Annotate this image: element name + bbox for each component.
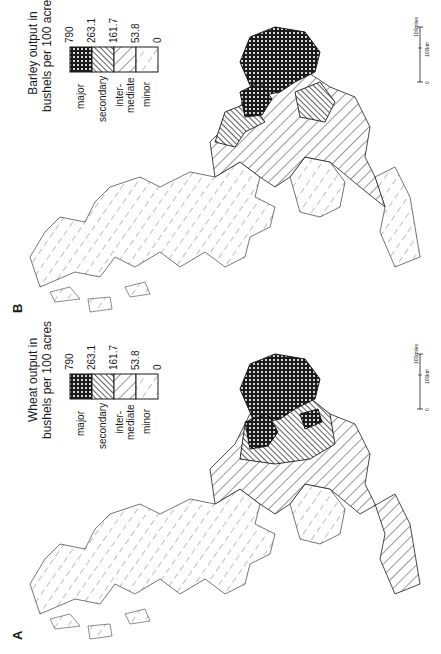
legend-label-intermediate-1: inter- (114, 77, 125, 113)
legend-break-790: 790 (64, 26, 75, 43)
legend-break-0: 0 (152, 37, 163, 43)
scale-km: 100km (424, 42, 430, 57)
legend-title-line1: Wheat output in (26, 321, 40, 439)
scale-zero: 0 (424, 81, 430, 84)
legend-swatches (70, 47, 158, 72)
legend-label-intermediate-2: mediate (125, 404, 136, 440)
legend-swatches (70, 374, 158, 399)
legend-label-intermediate: inter- mediate (114, 404, 136, 440)
legend-label-minor: minor (141, 82, 152, 107)
legend-title-line2: bushels per 100 acres (40, 0, 54, 112)
legend-break-263: 263.1 (86, 345, 97, 370)
region-minor (30, 162, 275, 287)
legend-label-intermediate: inter- mediate (114, 77, 136, 113)
legend-title-line1: Barley output in (26, 0, 40, 112)
scale-miles: 100miles (413, 17, 419, 37)
legend-break-0: 0 (152, 364, 163, 370)
panel-letter: A (10, 631, 25, 640)
legend-label-major: major (75, 84, 86, 109)
legend-title: Wheat output in bushels per 100 acres (26, 321, 54, 439)
barley-map-svg (0, 0, 441, 327)
barley-map-rotated-canvas: B Barley output in bushels per 100 acres… (0, 0, 441, 327)
legend-label-secondary: secondary (97, 76, 108, 122)
legend-break-53: 53.8 (130, 24, 141, 43)
region-minor-sw (375, 167, 420, 267)
legend-label-minor: minor (141, 409, 152, 434)
panel-letter: B (10, 304, 25, 313)
legend-break-161: 161.7 (108, 18, 119, 43)
legend-break-263: 263.1 (86, 18, 97, 43)
scale-zero: 0 (424, 408, 430, 411)
scale-miles: 100miles (413, 344, 419, 364)
legend-label-intermediate-2: mediate (125, 77, 136, 113)
islands (50, 282, 150, 312)
wheat-map-rotated-canvas: A Wheat output in bushels per 100 acres … (0, 327, 441, 654)
legend-label-intermediate-1: inter- (114, 404, 125, 440)
legend-break-790: 790 (64, 353, 75, 370)
legend-label-secondary: secondary (97, 403, 108, 449)
scale-km: 100km (424, 369, 430, 384)
legend-title: Barley output in bushels per 100 acres (26, 0, 54, 112)
legend-break-161: 161.7 (108, 345, 119, 370)
wheat-map-panel: A Wheat output in bushels per 100 acres … (0, 327, 441, 654)
legend-label-major: major (75, 411, 86, 436)
islands (50, 609, 150, 639)
region-minor (30, 489, 275, 614)
legend-break-53: 53.8 (130, 351, 141, 370)
legend-title-line2: bushels per 100 acres (40, 321, 54, 439)
barley-map-panel: B Barley output in bushels per 100 acres… (0, 0, 441, 327)
wheat-map-svg (0, 327, 441, 654)
